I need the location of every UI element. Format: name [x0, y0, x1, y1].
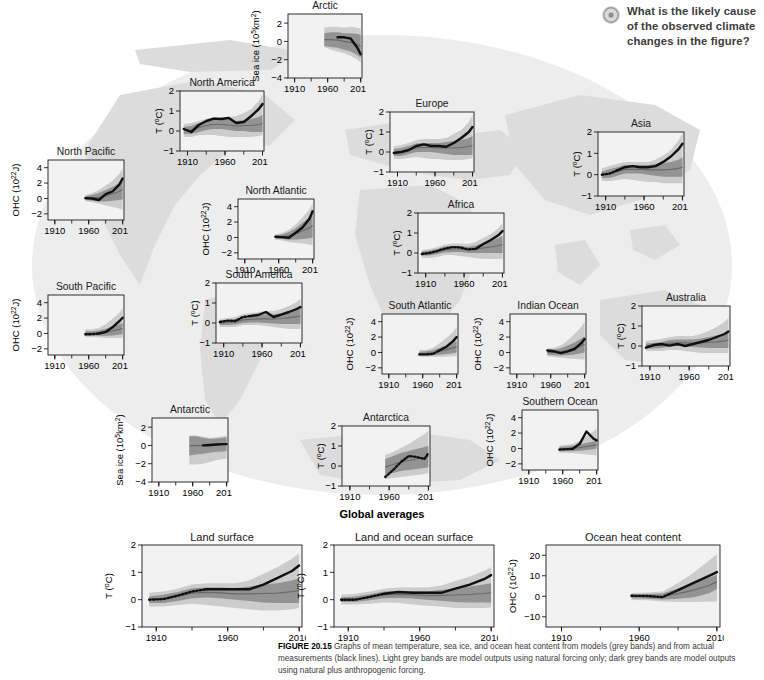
svg-text:1960: 1960 — [634, 201, 655, 212]
chart-panel-ocean-heat-content: Ocean heat content−1001020191019602010OH… — [502, 531, 724, 649]
svg-text:0: 0 — [587, 169, 592, 180]
chart-panel-land-and-ocean-surface: Land and ocean surface−1012191019602010T… — [290, 531, 498, 649]
chart-panel-asia: Asia−1012191019602010T (oC) — [568, 118, 688, 214]
svg-text:1: 1 — [331, 440, 336, 451]
chart-panel-indian-ocean: Indian Ocean−2024191019602010OHC (1022J) — [468, 300, 590, 392]
svg-text:2010: 2010 — [586, 475, 602, 486]
svg-text:−2: −2 — [505, 458, 516, 469]
chart-panel-land-surface: Land surface−1012191019602010T (oC) — [98, 531, 306, 649]
svg-text:1960: 1960 — [214, 156, 235, 167]
svg-text:0: 0 — [37, 193, 42, 204]
panel-plot: −1012191019602010T (oC) — [290, 531, 498, 649]
svg-text:2010: 2010 — [718, 371, 734, 382]
svg-text:−2: −2 — [31, 208, 42, 219]
svg-text:1: 1 — [631, 320, 636, 331]
question-callout: What is the likely cause of the observed… — [602, 4, 758, 49]
svg-text:−1: −1 — [317, 621, 328, 632]
svg-text:−2: −2 — [365, 362, 376, 373]
panel-plot: −1012191019602010T (oC) — [612, 292, 734, 384]
figure-caption: FIGURE 20.15 Graphs of mean temperature,… — [0, 641, 764, 680]
svg-text:−1: −1 — [125, 621, 136, 632]
y-axis-label: T (oC) — [153, 108, 164, 133]
svg-text:2010: 2010 — [462, 177, 478, 188]
svg-text:−4: −4 — [135, 476, 146, 487]
y-axis-label: OHC (1022J) — [10, 299, 21, 352]
svg-text:1: 1 — [131, 567, 136, 578]
panel-plot: −1012191019602010T (oC) — [360, 98, 478, 190]
svg-text:2: 2 — [141, 422, 146, 433]
svg-text:2010: 2010 — [446, 379, 462, 390]
chart-panel-south-pacific: South Pacific−2024191019602010OHC (1022J… — [6, 281, 128, 373]
svg-text:4: 4 — [511, 412, 516, 423]
svg-text:2: 2 — [37, 312, 42, 323]
svg-text:2: 2 — [131, 539, 136, 550]
panel-plot: −1012191019602010T (oC) — [388, 199, 508, 291]
caption-text: Graphs of mean temperature, sea ice, and… — [278, 642, 735, 675]
y-axis-label: OHC (1022J) — [344, 318, 355, 371]
panel-plot: −1012191019602010T (oC) — [312, 412, 434, 504]
svg-text:1910: 1910 — [44, 360, 65, 371]
question-marker-icon — [602, 6, 620, 24]
y-axis-label: T (oC) — [571, 151, 582, 176]
y-axis-label: Sea ice (105km2) — [250, 10, 261, 81]
svg-text:2010: 2010 — [418, 491, 434, 502]
svg-text:1: 1 — [407, 227, 412, 238]
svg-text:0: 0 — [277, 36, 282, 47]
svg-text:1910: 1910 — [595, 201, 616, 212]
svg-text:−2: −2 — [135, 458, 146, 469]
chart-panel-antarctic: Antarctic−4−202191019602010Sea ice (105k… — [110, 404, 232, 500]
svg-text:2: 2 — [379, 106, 384, 117]
svg-text:1960: 1960 — [317, 83, 338, 94]
svg-text:0: 0 — [205, 317, 210, 328]
svg-text:2: 2 — [37, 177, 42, 188]
svg-text:1960: 1960 — [252, 348, 273, 359]
svg-text:−1: −1 — [163, 145, 174, 156]
svg-text:4: 4 — [227, 201, 232, 212]
svg-text:1910: 1910 — [284, 83, 305, 94]
svg-text:1960: 1960 — [379, 491, 400, 502]
svg-text:1910: 1910 — [387, 177, 408, 188]
y-axis-label: T (oC) — [391, 230, 402, 255]
svg-text:0: 0 — [131, 594, 136, 605]
svg-text:1: 1 — [379, 126, 384, 137]
svg-text:2010: 2010 — [252, 156, 268, 167]
svg-text:1960: 1960 — [540, 379, 561, 390]
svg-text:2010: 2010 — [492, 278, 508, 289]
svg-text:−2: −2 — [271, 54, 282, 65]
svg-text:−1: −1 — [199, 337, 210, 348]
chart-panel-africa: Africa−1012191019602010T (oC) — [388, 199, 508, 291]
panel-plot: −2024191019602010OHC (1022J) — [6, 146, 128, 238]
svg-text:1960: 1960 — [78, 360, 99, 371]
y-axis-label: OHC (1022J) — [200, 203, 211, 256]
svg-text:−2: −2 — [221, 247, 232, 258]
caption-spacer — [6, 641, 278, 653]
caption-figure-label: FIGURE 20.15 — [278, 642, 332, 651]
chart-panel-north-pacific: North Pacific−2024191019602010OHC (1022J… — [6, 146, 128, 238]
svg-text:1910: 1910 — [213, 348, 234, 359]
svg-text:2: 2 — [499, 331, 504, 342]
chart-panel-south-atlantic: South Atlantic−2024191019602010OHC (1022… — [340, 300, 462, 392]
svg-text:−4: −4 — [271, 72, 282, 83]
chart-panel-north-america: North America−1012191019602010T (oC) — [150, 77, 268, 169]
svg-text:1910: 1910 — [339, 491, 360, 502]
panel-plot: −2024191019602010OHC (1022J) — [468, 300, 590, 392]
panel-plot: −1012191019602010T (oC) — [186, 269, 306, 361]
y-axis-label: T (oC) — [294, 573, 306, 599]
svg-text:10: 10 — [529, 570, 540, 581]
y-axis-label: Sea ice (105km2) — [114, 414, 125, 485]
svg-text:0: 0 — [631, 340, 636, 351]
svg-text:0: 0 — [379, 146, 384, 157]
svg-text:−1: −1 — [401, 267, 412, 278]
svg-text:1910: 1910 — [506, 379, 527, 390]
svg-text:−1: −1 — [581, 190, 592, 201]
svg-text:−10: −10 — [524, 611, 540, 622]
svg-text:2: 2 — [407, 207, 412, 218]
svg-text:4: 4 — [499, 316, 504, 327]
svg-text:0: 0 — [323, 594, 328, 605]
chart-panel-antarctica: Antarctica−1012191019602010T (oC) — [312, 412, 434, 504]
svg-text:−1: −1 — [625, 360, 636, 371]
svg-text:1910: 1910 — [415, 278, 436, 289]
panel-plot: −4−202191019602010Sea ice (105km2) — [110, 404, 232, 500]
panel-plot: −1001020191019602010OHC (1022J) — [502, 531, 724, 649]
y-axis-label: T (oC) — [189, 300, 200, 325]
